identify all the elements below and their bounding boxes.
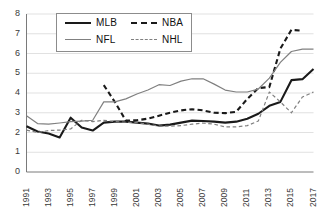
- y-tick-label: 0: [6, 167, 20, 176]
- y-tick-label: 2: [6, 128, 20, 137]
- legend-label: MLB: [96, 17, 117, 28]
- x-tick-label: 2009: [220, 175, 229, 207]
- series-line-mlb: [27, 69, 314, 138]
- legend-item-nba: NBA: [131, 17, 183, 28]
- legend-label: NBA: [162, 17, 183, 28]
- y-tick-label: 6: [6, 49, 20, 58]
- y-tick-label: 1: [6, 147, 20, 156]
- legend-item-nfl: NFL: [65, 34, 116, 45]
- x-tick-label: 2001: [132, 175, 141, 207]
- legend-label: NFL: [96, 34, 116, 45]
- legend-swatch-mlb: [65, 22, 91, 24]
- y-tick-label: 4: [6, 88, 20, 97]
- x-tick-label: 2015: [286, 175, 295, 207]
- y-tick-label: 8: [6, 9, 20, 18]
- x-tick-label: 2017: [309, 175, 318, 207]
- line-chart: 876543210 199119931995199719992001200320…: [0, 0, 321, 216]
- y-tick-label: 3: [6, 108, 20, 117]
- x-tick-label: 2007: [198, 175, 207, 207]
- legend-item-nhl: NHL: [131, 34, 183, 45]
- series-line-nhl: [27, 92, 314, 132]
- legend-swatch-nhl: [131, 39, 157, 40]
- legend-swatch-nba: [131, 22, 157, 24]
- x-tick-label: 1997: [88, 175, 97, 207]
- y-tick-label: 5: [6, 68, 20, 77]
- x-tick-label: 2003: [154, 175, 163, 207]
- x-tick-label: 1995: [66, 175, 75, 207]
- legend-swatch-nfl: [65, 39, 91, 40]
- legend-label: NHL: [162, 34, 183, 45]
- x-tick-label: 2013: [264, 175, 273, 207]
- x-tick-label: 2011: [242, 175, 251, 207]
- x-tick-label: 1991: [22, 175, 31, 207]
- x-tick-label: 2005: [176, 175, 185, 207]
- legend: MLBNBANFLNHL: [56, 13, 192, 52]
- legend-item-mlb: MLB: [65, 17, 117, 28]
- x-tick-label: 1993: [44, 175, 53, 207]
- x-tick-label: 1999: [110, 175, 119, 207]
- y-tick-label: 7: [6, 29, 20, 38]
